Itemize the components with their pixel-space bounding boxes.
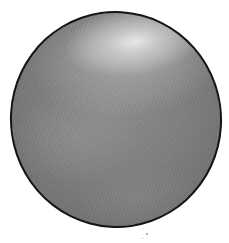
sphere-illustration <box>0 0 229 242</box>
dust-speck <box>142 238 143 239</box>
sphere-texture <box>0 0 229 239</box>
dust-speck <box>146 233 148 235</box>
